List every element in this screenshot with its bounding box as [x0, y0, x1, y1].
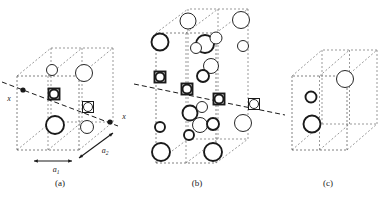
atom-circle-thin [180, 13, 196, 29]
atom [197, 70, 209, 82]
axis-label-x-right: x [121, 112, 126, 121]
atom-circle-thin [233, 12, 250, 29]
atom [182, 84, 193, 95]
atom [204, 143, 222, 161]
atom-circle-bold [204, 143, 222, 161]
atom [249, 99, 260, 110]
atom [193, 118, 208, 133]
lattice-vector-subscript: 2 [106, 150, 109, 156]
atom-circle-thin [47, 65, 58, 76]
atom-circle-thin [250, 100, 259, 109]
atom [184, 130, 194, 140]
atom-circle-thin [238, 41, 249, 52]
atom-circle-thin [76, 65, 93, 82]
atom-circle-thin [210, 32, 222, 44]
atom-circle-bold [155, 122, 165, 132]
atom-circle-bold [183, 106, 198, 121]
atom [207, 118, 219, 130]
atom-circle-thin [197, 102, 208, 113]
atom [210, 32, 222, 44]
atom-circle-bold [184, 130, 194, 140]
atom [306, 92, 317, 103]
atom [46, 116, 64, 134]
atom [49, 89, 60, 100]
atom-circle-thin [337, 71, 354, 88]
atom-circle-bold [152, 143, 170, 161]
axis-label-x-left: x [6, 94, 11, 103]
atom [47, 65, 58, 76]
atom [197, 102, 208, 113]
atom-circle-bold [306, 92, 317, 103]
atom [191, 43, 202, 54]
atom [180, 13, 196, 29]
atom [238, 41, 249, 52]
atom-circle-bold [156, 73, 165, 82]
panel-caption: (a) [55, 178, 65, 188]
atom [214, 94, 225, 105]
atom [81, 121, 94, 134]
atom-circle-thin [191, 43, 202, 54]
atom [155, 72, 166, 83]
atom-circle-bold [152, 34, 169, 51]
atom [83, 102, 94, 113]
atom-circle-bold [197, 70, 209, 82]
atom-circle-bold [304, 116, 321, 133]
crystal-structure-figure: a1a2xx(a)(b)(c) [0, 0, 387, 197]
axis-node-dot [107, 119, 112, 124]
atom [337, 71, 354, 88]
atom-circle-thin [84, 103, 93, 112]
atom-circle-bold [183, 85, 192, 94]
atom [155, 122, 165, 132]
atom [183, 106, 198, 121]
atom-circle-bold [215, 95, 224, 104]
atom [304, 116, 321, 133]
atom-circle-thin [193, 118, 208, 133]
atom-circle-bold [46, 116, 64, 134]
panel-caption: (b) [192, 178, 203, 188]
atom [235, 115, 252, 132]
atom-circle-thin [235, 115, 252, 132]
atom [152, 34, 169, 51]
atom [233, 12, 250, 29]
lattice-vector-subscript: 1 [57, 169, 60, 175]
atom [152, 143, 170, 161]
atom-circle-thin [81, 121, 94, 134]
atom-circle-bold [207, 118, 219, 130]
axis-node-dot [20, 87, 25, 92]
atom-circle-bold [50, 90, 59, 99]
atom [76, 65, 93, 82]
panel-caption: (c) [323, 178, 333, 188]
